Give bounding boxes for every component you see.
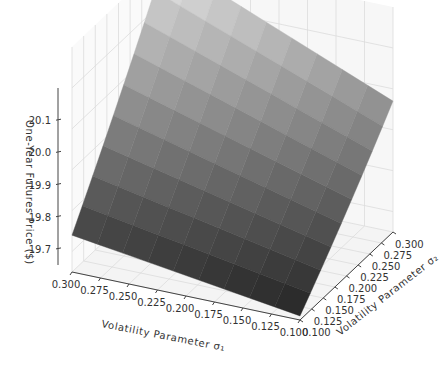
x-tick-label: 0.225 <box>137 297 166 308</box>
x-tick-label: 0.200 <box>166 303 195 314</box>
x-axis-label: Volatility Parameter σ₁ <box>101 318 227 353</box>
y-tick-label: 0.175 <box>337 294 366 305</box>
y-tick-label: 0.300 <box>395 239 424 250</box>
surface-plot: 19.719.819.920.020.10.3000.2750.2500.225… <box>0 0 444 365</box>
surface-chart: 19.719.819.920.020.10.3000.2750.2500.225… <box>0 0 444 365</box>
y-tick-label: 0.150 <box>325 305 354 316</box>
x-tick-label: 0.175 <box>194 309 223 320</box>
x-tick-label: 0.150 <box>223 315 252 326</box>
x-tick-label: 0.125 <box>251 321 280 332</box>
x-tick-label: 0.250 <box>109 291 138 302</box>
y-tick-label: 0.200 <box>349 283 378 294</box>
y-tick-label: 0.250 <box>372 261 401 272</box>
y-tick-label: 0.225 <box>360 272 389 283</box>
y-tick-label: 0.275 <box>383 250 412 261</box>
z-axis-label: One-Year Futures Price ($) <box>24 120 35 265</box>
x-tick-label: 0.300 <box>52 279 81 290</box>
x-tick-label: 0.275 <box>80 285 109 296</box>
y-tick-label: 0.100 <box>302 327 331 338</box>
